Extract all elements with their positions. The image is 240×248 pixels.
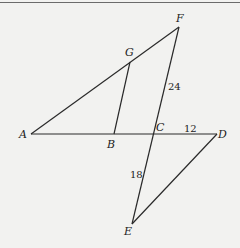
measure-CE: 18 bbox=[130, 169, 143, 180]
measure-FC: 24 bbox=[168, 81, 181, 92]
geometry-diagram: F G A B C D E 24 12 18 bbox=[0, 0, 240, 248]
point-label-A: A bbox=[18, 128, 27, 141]
point-label-F: F bbox=[175, 12, 184, 25]
segment-ED bbox=[132, 134, 217, 224]
point-label-C: C bbox=[156, 121, 165, 134]
measure-CD: 12 bbox=[184, 123, 197, 134]
point-label-G: G bbox=[125, 46, 134, 59]
point-label-D: D bbox=[217, 128, 227, 141]
point-label-E: E bbox=[123, 225, 132, 238]
point-label-B: B bbox=[106, 138, 115, 151]
